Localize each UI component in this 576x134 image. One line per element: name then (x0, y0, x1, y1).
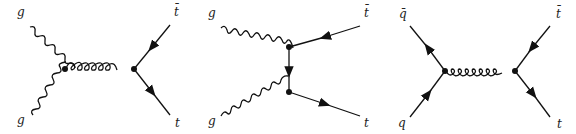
label-quark: q (398, 117, 406, 129)
diagram-1 (30, 25, 170, 115)
vertex (62, 66, 68, 72)
label-antitop: t̄ (364, 7, 369, 19)
vertex (442, 68, 448, 74)
gluon-line-top (30, 27, 75, 68)
label-gluon-top: g (208, 7, 216, 19)
vertex (286, 44, 292, 50)
top-line (289, 92, 325, 104)
quark-line (410, 94, 428, 117)
label-antitop: t̄ (556, 8, 561, 20)
label-top: t (175, 117, 180, 129)
feynman-diagrams (0, 0, 576, 134)
label-antiquark: q̄ (399, 8, 407, 20)
top-line (515, 71, 533, 94)
gluon-line-top (221, 26, 293, 48)
gluon-propagator (446, 69, 502, 76)
gluon-line-bottom (32, 62, 66, 115)
vertex (512, 68, 518, 74)
antitop-line (532, 26, 550, 48)
label-gluon-bottom: g (208, 115, 216, 127)
gluon-line-bottom (221, 76, 288, 116)
diagram-2 (221, 26, 360, 116)
antitop-line (152, 25, 170, 47)
label-top: t (557, 118, 562, 130)
label-antitop: t̄ (174, 6, 179, 18)
diagram-3 (410, 26, 550, 117)
label-gluon-top: g (17, 6, 25, 18)
antiquark-line (428, 48, 445, 71)
top-line (134, 69, 152, 92)
antitop-line (325, 26, 360, 37)
vertex (286, 89, 292, 95)
label-top: t (364, 117, 369, 129)
label-gluon-bottom: g (17, 114, 25, 126)
vertex (131, 66, 137, 72)
